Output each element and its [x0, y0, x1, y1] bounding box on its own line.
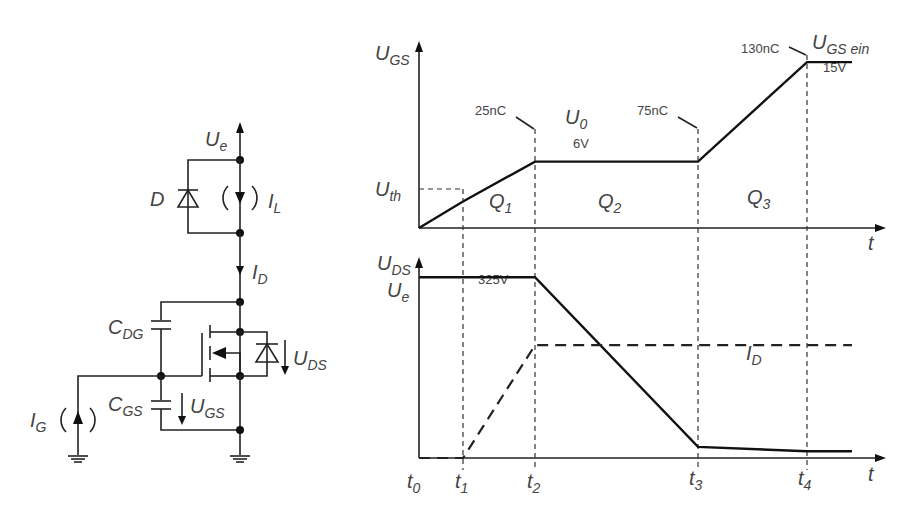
- figure: Ue D IL ID CDG: [0, 0, 913, 509]
- region-q1: Q1: [489, 190, 512, 216]
- ugs-y-label: UGS: [375, 42, 410, 68]
- tick-t0: t0: [407, 470, 421, 496]
- chart-uds: UDS t Ue 325V ID t0 t1 t2 t3 t4: [377, 252, 886, 496]
- annotation-25nc: 25nC: [475, 103, 506, 118]
- ugs-curve: [419, 62, 852, 228]
- ugs-label: UGS: [190, 395, 225, 421]
- time-guides: [463, 55, 807, 470]
- mosfet-arrow-icon: [212, 347, 226, 359]
- ugs-ein-label: UGS ein: [812, 31, 869, 57]
- uds-y-axis-arrow-icon: [415, 257, 423, 268]
- region-q2: Q2: [598, 190, 622, 216]
- load-current-label: IL: [268, 190, 281, 216]
- annotation-130nc: 130nC: [741, 41, 779, 56]
- uth-label: Uth: [375, 178, 401, 204]
- ugs-arrow-icon: [178, 416, 186, 425]
- uds-y-label: UDS: [377, 252, 412, 278]
- cdg-label: CDG: [108, 316, 144, 342]
- ground-icon: [230, 456, 250, 462]
- ugs-x-axis-arrow-icon: [875, 224, 886, 232]
- ue-value: 325V: [478, 272, 509, 287]
- drain-current-arrow-icon: [236, 266, 244, 275]
- gate-current-label: IG: [30, 409, 47, 435]
- body-diode-wire: [240, 332, 267, 376]
- uds-x-label: t: [868, 463, 875, 485]
- diode-branch-wire: [188, 160, 240, 233]
- ue-label: Ue: [387, 279, 409, 305]
- uds-label: UDS: [293, 347, 328, 373]
- ugs-x-label: t: [868, 232, 875, 254]
- tick-t4: t4: [798, 467, 812, 493]
- node-ground: [236, 426, 244, 434]
- uds-x-axis-arrow-icon: [875, 454, 886, 462]
- cdg-wire-top: [161, 302, 240, 320]
- ugs-ein-value: 15V: [823, 60, 846, 75]
- mosfet: [202, 325, 240, 382]
- annotation-75nc: 75nC: [637, 103, 668, 118]
- tick-t1: t1: [455, 470, 468, 496]
- gate-current-source: [61, 402, 95, 455]
- ground-icon: [68, 456, 88, 462]
- tick-t3: t3: [689, 467, 703, 493]
- gate-current-arrow-icon: [73, 411, 83, 424]
- capacitor-cdg: [151, 321, 171, 329]
- diode-label: D: [150, 188, 164, 210]
- drain-current-label: ID: [252, 261, 268, 287]
- capacitor-cgs: [151, 401, 171, 409]
- u0-label: U0: [565, 106, 587, 132]
- supply-arrow-icon: [236, 122, 244, 133]
- chart-ugs: UGS t Uth 25nC U0 6V 75nC 130nC UGS ein …: [375, 31, 886, 254]
- tick-t2: t2: [527, 470, 541, 496]
- supply-label: Ue: [205, 128, 227, 154]
- circuit: Ue D IL ID CDG: [30, 122, 328, 462]
- uds-arrow-icon: [281, 366, 289, 375]
- region-q3: Q3: [747, 186, 771, 212]
- u0-value: 6V: [573, 136, 589, 151]
- ugs-y-axis-arrow-icon: [415, 41, 423, 52]
- current-arrow-icon: [235, 192, 245, 204]
- id-curve: [419, 345, 852, 458]
- cgs-label: CGS: [108, 393, 143, 419]
